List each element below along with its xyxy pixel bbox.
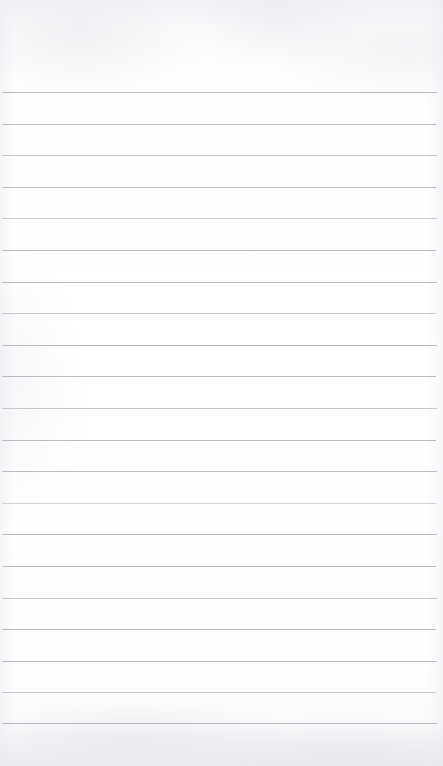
ruled-line-3 — [2, 155, 437, 156]
notepad-page — [0, 0, 443, 766]
ruled-line-16 — [2, 566, 436, 567]
page-footer-area[interactable] — [0, 724, 443, 766]
ruled-line-11 — [2, 408, 437, 409]
ruled-line-8 — [2, 313, 436, 314]
ruled-line-9 — [2, 345, 437, 346]
ruled-line-17 — [2, 598, 437, 599]
ruled-line-20 — [2, 692, 436, 693]
ruled-line-12 — [2, 440, 436, 441]
ruled-line-13 — [2, 471, 437, 472]
ruled-line-6 — [2, 250, 436, 251]
ruled-line-10 — [2, 376, 436, 377]
ruled-line-14 — [2, 503, 436, 504]
ruled-line-7 — [2, 282, 437, 283]
ruled-line-15 — [2, 534, 437, 535]
ruled-line-18 — [2, 629, 436, 630]
ruled-line-5 — [2, 218, 437, 219]
ruled-line-2 — [2, 124, 436, 125]
ruled-lines-layer — [0, 0, 443, 766]
ruled-line-1 — [2, 92, 437, 93]
ruled-line-4 — [2, 187, 436, 188]
ruled-line-19 — [2, 661, 437, 662]
